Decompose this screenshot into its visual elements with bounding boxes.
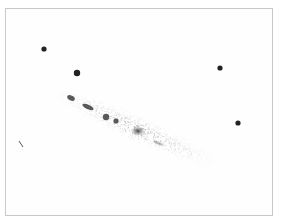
star-icon [41, 46, 46, 51]
stars [41, 46, 240, 125]
star-icon [217, 65, 222, 70]
star-icon [235, 120, 240, 125]
stroke-mark [19, 141, 23, 147]
galaxy-sketch [0, 0, 284, 221]
star-icon [74, 70, 80, 76]
